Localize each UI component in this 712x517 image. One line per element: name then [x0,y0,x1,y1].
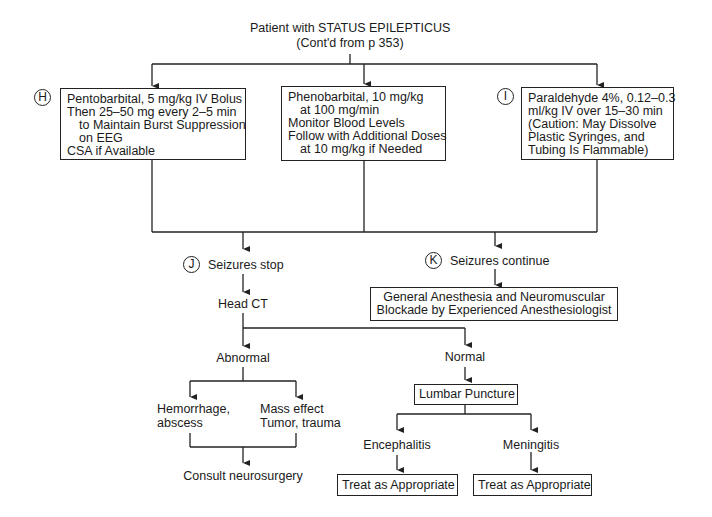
phenobarbital-box: Phenobarbital, 10 mg/kg at 100 mg/min Mo… [281,86,446,161]
marker-k-icon: K [425,252,442,269]
title-line2: (Cont'd from p 353) [250,37,450,50]
paraldehyde-line: Tubing Is Flammable) [528,144,667,157]
encephalitis-label: Encephalitis [352,439,442,452]
treat-meningitis-box: Treat as Appropriate [473,474,592,496]
seizures-continue-label: Seizures continue [450,255,549,268]
paraldehyde-box: Paraldehyde 4%, 0.12–0.3 ml/kg IV over 1… [521,87,674,160]
head-ct-label: Head CT [203,298,283,311]
abnormal-label: Abnormal [203,352,283,365]
mass-effect-label: Mass effect [260,403,324,416]
marker-i-icon: I [497,88,514,105]
seizures-stop-label: Seizures stop [208,259,284,272]
general-anesthesia-box: General Anesthesia and Neuromuscular Blo… [370,287,618,321]
consult-neurosurgery-label: Consult neurosurgery [173,470,313,483]
lumbar-puncture-label: Lumbar Puncture [419,388,513,401]
normal-label: Normal [425,351,505,364]
marker-j-icon: J [183,256,200,273]
marker-h-icon: H [34,89,51,106]
treat-label: Treat as Appropriate [478,479,587,492]
meningitis-label: Meningitis [486,439,576,452]
hemorrhage-label: Hemorrhage, [157,403,230,416]
phenobarbital-line: at 10 mg/kg if Needed [288,143,439,156]
anesthesia-line2: Blockade by Experienced Anesthesiologist [375,304,613,317]
title-line1: Patient with STATUS EPILEPTICUS [250,22,450,35]
flowchart: Patient with STATUS EPILEPTICUS (Cont'd … [0,0,712,517]
lumbar-puncture-box: Lumbar Puncture [414,384,518,405]
tumor-trauma-label: Tumor, trauma [260,417,341,430]
pentobarbital-box: Pentobarbital, 5 mg/kg IV Bolus Then 25–… [60,88,246,160]
abscess-label: abscess [157,417,203,430]
treat-label: Treat as Appropriate [342,479,453,492]
pentobarbital-line: CSA if Available [67,145,239,158]
treat-encephalitis-box: Treat as Appropriate [337,474,458,496]
